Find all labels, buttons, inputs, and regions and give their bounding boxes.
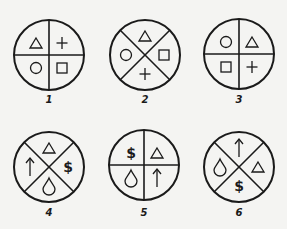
circle-icon — [121, 50, 132, 61]
figure-label-3: 3 — [199, 94, 279, 105]
figure-label-6: 6 — [199, 207, 279, 218]
drop-icon — [214, 159, 226, 176]
circle-figure-3 — [199, 14, 279, 94]
arrow-up-icon — [153, 169, 161, 187]
plus-icon — [57, 37, 68, 49]
circle-figure-4: $ — [9, 127, 89, 207]
square-icon — [159, 50, 169, 60]
dollar-icon: $ — [63, 159, 73, 175]
figure-4: $ 4 — [9, 127, 89, 227]
drop-icon — [125, 170, 137, 187]
triangle-icon — [139, 31, 151, 41]
figure-1: 1 — [9, 15, 89, 115]
figure-label-4: 4 — [9, 207, 89, 218]
triangle-icon — [30, 38, 42, 48]
figure-6: $ 6 — [199, 127, 279, 227]
dollar-icon: $ — [234, 178, 244, 194]
circle-figure-5: $ — [104, 125, 184, 205]
figure-3: 3 — [199, 14, 279, 114]
drop-icon — [43, 178, 55, 195]
arrow-up-icon — [26, 158, 34, 176]
figure-grid: 1 2 3 $ 4 $ 5 $ 6 — [0, 0, 287, 229]
circle-icon — [31, 63, 42, 74]
plus-icon — [140, 68, 151, 80]
triangle-icon — [246, 37, 258, 47]
circle-figure-2 — [105, 15, 185, 95]
arrow-up-icon — [235, 139, 243, 157]
square-icon — [221, 62, 231, 72]
circle-figure-6: $ — [199, 127, 279, 207]
triangle-icon — [252, 162, 264, 172]
figure-5: $ 5 — [104, 125, 184, 225]
triangle-icon — [43, 143, 55, 153]
square-icon — [57, 63, 67, 73]
dollar-icon: $ — [126, 145, 136, 161]
triangle-icon — [151, 148, 163, 158]
figure-2: 2 — [105, 15, 185, 115]
plus-icon — [247, 61, 258, 73]
circle-icon — [221, 37, 232, 48]
figure-label-1: 1 — [9, 94, 89, 105]
circle-figure-1 — [9, 15, 89, 95]
figure-label-2: 2 — [105, 94, 185, 105]
figure-label-5: 5 — [104, 207, 184, 218]
